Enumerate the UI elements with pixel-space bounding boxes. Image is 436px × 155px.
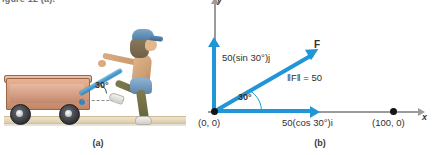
horizontal-component-label: 50(cos 30°)i <box>282 117 333 128</box>
boy-hand <box>98 60 106 67</box>
endpoint-point-dot <box>390 108 397 115</box>
panel-b-caption: (b) <box>300 138 340 148</box>
force-vector-label: F <box>314 39 320 50</box>
wagon-interior <box>10 84 84 103</box>
boy-rear-shoe <box>108 92 125 105</box>
wagon-wheel-front <box>59 104 80 125</box>
boy-figure <box>108 28 186 122</box>
y-axis-label: y <box>217 0 222 5</box>
boy-front-shoe <box>135 116 152 125</box>
panel-a-caption: (a) <box>78 138 118 148</box>
panel-b-angle-label: 30° <box>238 92 252 102</box>
x-axis-label: x <box>422 112 427 122</box>
vertical-component-vector <box>212 45 216 111</box>
vertical-vector-arrowhead-icon <box>208 37 220 47</box>
vertical-component-label: 50(sin 30°)j <box>222 52 270 63</box>
panel-b-vector-diagram: y x 50(sin 30°)j F ‖F‖ = 50 30° (0, 0) 5… <box>196 0 436 155</box>
wagon-wheel-rear <box>10 104 31 125</box>
panel-a-angle-label: 30° <box>95 80 109 90</box>
panel-a-illustration: 30° (a) <box>0 0 200 155</box>
origin-coordinate-label: (0, 0) <box>198 117 220 128</box>
horizontal-component-vector <box>214 109 314 113</box>
endpoint-coordinate-label: (100, 0) <box>372 117 405 128</box>
figure-container: igure 12 (a). 30° (a) <box>0 0 436 155</box>
ground-shadow <box>4 123 186 126</box>
origin-point-dot <box>211 108 218 115</box>
force-magnitude-label: ‖F‖ = 50 <box>287 72 322 83</box>
